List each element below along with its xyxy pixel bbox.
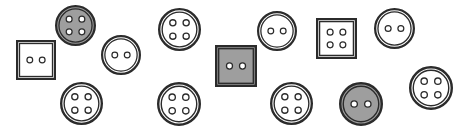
square-2-hole-gray <box>215 45 257 87</box>
square-4-hole-white <box>316 18 357 59</box>
round-4-hole-white <box>409 66 453 110</box>
round-2-hole-white <box>257 11 297 51</box>
round-4-hole-white <box>158 8 201 51</box>
round-4-hole-white <box>157 82 201 126</box>
round-2-hole-white <box>101 35 141 75</box>
round-4-hole-gray <box>55 5 96 46</box>
buttons-scene <box>0 0 457 132</box>
round-4-hole-white <box>60 82 103 125</box>
square-2-hole-white <box>16 40 56 80</box>
round-4-hole-white <box>270 82 313 125</box>
round-2-hole-white <box>374 8 415 49</box>
round-2-hole-gray <box>339 82 383 126</box>
